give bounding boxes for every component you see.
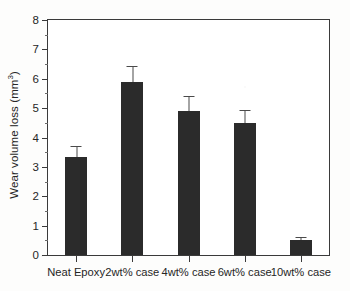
y-axis-tick-minor — [45, 152, 49, 153]
error-bar-stem — [132, 66, 133, 82]
x-axis-tick-label: 6wt% case — [218, 266, 272, 278]
plot-area: 012345678Neat Epoxy2wt% case4wt% case6wt… — [47, 19, 330, 256]
error-bar-cap — [127, 66, 138, 67]
y-axis-title-text: Wear volume loss (mm3) — [6, 71, 20, 199]
error-bar-cap — [183, 96, 194, 97]
error-bar-stem — [245, 110, 246, 123]
error-bar-cap — [239, 110, 250, 111]
error-bar — [127, 66, 138, 82]
y-axis-tick-label: 7 — [33, 43, 39, 55]
x-axis-tick-label: 2wt% case — [105, 266, 159, 278]
x-axis-tick — [245, 255, 246, 262]
y-axis-tick-label: 8 — [33, 14, 39, 26]
bar — [234, 123, 256, 255]
y-axis-tick-major — [42, 167, 48, 168]
error-bar-cap — [71, 146, 82, 147]
x-axis-tick-label: Neat Epoxy — [47, 266, 105, 278]
x-axis-tick — [132, 255, 133, 262]
y-axis-title-exponent: 3 — [6, 75, 15, 80]
y-axis-tick-label: 1 — [33, 220, 39, 232]
bar — [121, 82, 143, 255]
y-axis-tick-label: 3 — [33, 161, 39, 173]
y-axis-tick-major — [42, 226, 48, 227]
bar — [65, 157, 87, 255]
y-axis-tick-major — [42, 49, 48, 50]
error-bar-stem — [76, 146, 77, 156]
figure-canvas: Wear volume loss (mm3) 012345678Neat Epo… — [0, 0, 350, 291]
y-axis-tick-major — [42, 79, 48, 80]
x-axis-tick — [301, 255, 302, 262]
error-bar — [239, 110, 250, 123]
y-axis-tick-label: 5 — [33, 102, 39, 114]
y-axis-title: Wear volume loss (mm3) — [0, 0, 26, 270]
x-axis-tick — [76, 255, 77, 262]
y-axis-tick-major — [42, 138, 48, 139]
y-axis-tick-minor — [45, 182, 49, 183]
y-axis-tick-minor — [45, 211, 49, 212]
x-axis-tick-label: 4wt% case — [161, 266, 215, 278]
error-bar — [295, 237, 306, 240]
y-axis-tick-major — [42, 20, 48, 21]
y-axis-tick-minor — [45, 240, 49, 241]
error-bar-cap — [295, 237, 306, 238]
y-axis-tick-major — [42, 196, 48, 197]
x-axis-tick — [189, 255, 190, 262]
x-axis-tick-label: 10wt% case — [271, 266, 331, 278]
error-bar-stem — [189, 96, 190, 111]
y-axis-tick-major — [42, 255, 48, 256]
error-bar — [71, 146, 82, 156]
y-axis-tick-minor — [45, 64, 49, 65]
y-axis-tick-label: 2 — [33, 190, 39, 202]
error-bar — [183, 96, 194, 111]
y-axis-tick-minor — [45, 123, 49, 124]
y-axis-tick-minor — [45, 93, 49, 94]
y-axis-title-base: Wear volume loss (mm — [8, 80, 20, 199]
bar — [290, 240, 312, 255]
bar — [178, 111, 200, 255]
y-axis-tick-minor — [45, 35, 49, 36]
y-axis-tick-label: 6 — [33, 73, 39, 85]
y-axis-tick-label: 0 — [33, 249, 39, 261]
y-axis-tick-label: 4 — [33, 132, 39, 144]
y-axis-tick-major — [42, 108, 48, 109]
y-axis-title-tail: ) — [8, 71, 20, 75]
